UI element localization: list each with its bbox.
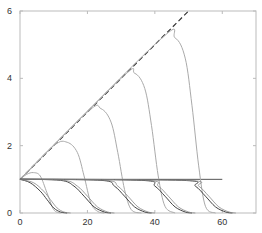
x-tick-label: 20: [82, 217, 92, 227]
y-tick-label: 6: [7, 6, 12, 16]
series-growth-pulse-1: [20, 173, 60, 213]
series-decay-companion: [20, 179, 195, 213]
y-tick-label: 4: [7, 73, 12, 83]
line-chart: 0204060 0246: [0, 0, 262, 233]
axis-ticks: [20, 11, 256, 213]
data-series: [20, 11, 236, 213]
series-growth-pulse-3: [20, 105, 141, 213]
y-tick-label: 2: [7, 141, 12, 151]
plot-frame: [20, 11, 256, 213]
x-tick-label: 60: [217, 217, 227, 227]
y-axis-tick-labels: 0246: [7, 6, 12, 218]
x-axis-tick-labels: 0204060: [17, 217, 227, 227]
series-growth-pulse-5: [20, 29, 216, 213]
series-growth-pulse-2: [20, 141, 104, 213]
series-decay-companion: [20, 179, 71, 213]
y-tick-label: 0: [7, 208, 12, 218]
series-decay-2: [20, 179, 111, 213]
x-tick-label: 0: [17, 217, 22, 227]
series-decay-companion: [20, 179, 114, 213]
x-tick-label: 40: [150, 217, 160, 227]
